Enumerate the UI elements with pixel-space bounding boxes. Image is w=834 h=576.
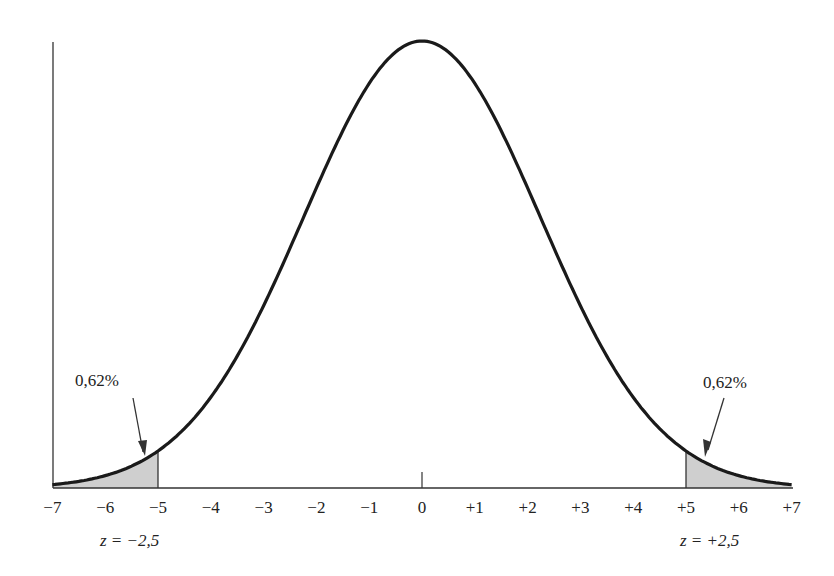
- x-tick-label: −4: [202, 498, 221, 517]
- normal-distribution-chart: −7−6−5−4−3−2−10+1+2+3+4+5+6+7 0,62% 0,62…: [0, 0, 834, 576]
- x-tick-label: +4: [624, 498, 643, 517]
- x-tick-label: −1: [360, 498, 378, 517]
- x-tick-label: −2: [307, 498, 325, 517]
- x-tick-labels: −7−6−5−4−3−2−10+1+2+3+4+5+6+7: [43, 498, 801, 517]
- x-tick-label: −7: [43, 498, 62, 517]
- right-percent-label: 0,62%: [703, 373, 747, 392]
- x-tick-label: +6: [730, 498, 748, 517]
- left-arrowhead-icon: [138, 440, 147, 456]
- x-tick-label: 0: [418, 498, 427, 517]
- left-percent-label: 0,62%: [75, 371, 119, 390]
- x-tick-label: +1: [466, 498, 484, 517]
- x-tick-label: +7: [783, 498, 802, 517]
- x-tick-label: +5: [677, 498, 695, 517]
- x-tick-label: −5: [149, 498, 167, 517]
- x-tick-label: +2: [519, 498, 537, 517]
- bell-curve: [52, 41, 791, 485]
- left-z-label: z = −2,5: [99, 531, 159, 550]
- right-z-label: z = +2,5: [679, 531, 739, 550]
- right-arrowhead-icon: [703, 439, 711, 457]
- x-tick-label: −3: [255, 498, 273, 517]
- x-tick-label: +3: [571, 498, 589, 517]
- x-tick-label: −6: [96, 498, 114, 517]
